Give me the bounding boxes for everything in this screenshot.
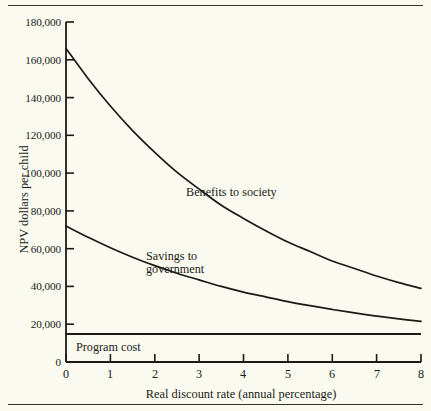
annotation-savings-line2: government — [146, 263, 204, 276]
y-axis-title: NPV dollars per child — [18, 120, 31, 280]
annotation-savings-line1: Savings to — [146, 250, 204, 263]
x-tick-label-4: 4 — [233, 368, 253, 380]
x-tick-marks — [66, 354, 421, 362]
y-tick-label-20000: 20,000 — [6, 319, 61, 330]
x-tick-label-6: 6 — [322, 368, 342, 380]
x-tick-label-0: 0 — [56, 368, 76, 380]
y-tick-marks — [66, 22, 74, 362]
y-tick-label-60000: 60,000 — [6, 244, 61, 255]
x-axis-title: Real discount rate (annual percentage) — [60, 388, 422, 401]
figure-container: 0 20,000 40,000 60,000 80,000 100,000 12… — [0, 0, 431, 411]
annotation-benefits-to-society: Benefits to society — [186, 186, 277, 199]
y-tick-label-160000: 160,000 — [0, 55, 61, 66]
y-tick-label-80000: 80,000 — [6, 206, 61, 217]
y-tick-label-140000: 140,000 — [0, 93, 61, 104]
y-tick-label-0: 0 — [16, 357, 61, 368]
plot-area — [0, 0, 431, 411]
y-tick-label-180000: 180,000 — [0, 17, 61, 28]
y-tick-label-100000: 100,000 — [0, 168, 61, 179]
x-tick-label-8: 8 — [411, 368, 431, 380]
x-tick-label-1: 1 — [100, 368, 120, 380]
x-tick-label-7: 7 — [367, 368, 387, 380]
x-tick-label-3: 3 — [189, 368, 209, 380]
annotation-program-cost: Program cost — [76, 341, 141, 354]
annotation-savings-to-government: Savings to government — [146, 250, 204, 277]
x-tick-label-2: 2 — [145, 368, 165, 380]
x-tick-label-5: 5 — [278, 368, 298, 380]
y-tick-label-120000: 120,000 — [0, 130, 61, 141]
y-tick-label-40000: 40,000 — [6, 281, 61, 292]
